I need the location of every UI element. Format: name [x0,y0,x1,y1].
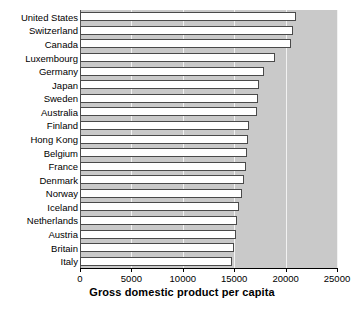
category-label: United States [0,13,78,23]
category-label: Sweden [0,94,78,104]
bar [80,230,236,239]
bar [80,80,259,89]
x-tick-label: 15000 [221,273,247,284]
bar [80,94,258,103]
category-label: Norway [0,189,78,199]
category-label: Denmark [0,176,78,186]
category-label: Japan [0,81,78,91]
bar [80,107,257,116]
x-tick-label: 25000 [324,273,350,284]
category-label: Australia [0,108,78,118]
x-tick-label: 5000 [121,273,142,284]
bar [80,216,237,225]
x-tick [131,268,132,272]
bar [80,53,275,62]
category-label: Austria [0,230,78,240]
bar [80,257,232,266]
x-tick [234,268,235,272]
category-label: Britain [0,244,78,254]
gridline-x [286,10,287,268]
bar [80,39,291,48]
category-axis-labels: United StatesSwitzerlandCanadaLuxembourg… [0,10,78,268]
bar [80,67,264,76]
x-tick [183,268,184,272]
x-tick [286,268,287,272]
bar [80,26,293,35]
category-label: Iceland [0,203,78,213]
x-axis-title: Gross domestic product per capita [0,286,364,298]
category-label: Canada [0,40,78,50]
category-label: Luxembourg [0,54,78,64]
category-label: Belgium [0,149,78,159]
bar [80,12,296,21]
x-tick-label: 0 [77,273,82,284]
x-axis-line [80,268,338,269]
category-label: Finland [0,121,78,131]
category-label: Hong Kong [0,135,78,145]
bar [80,148,247,157]
x-tick [337,268,338,272]
gridline-x [337,10,338,268]
category-label: France [0,162,78,172]
bar [80,202,239,211]
x-tick-label: 10000 [170,273,196,284]
bar [80,175,244,184]
bar [80,243,234,252]
bar [80,189,242,198]
bar [80,121,249,130]
plot-area [80,10,338,268]
category-label: Italy [0,257,78,267]
category-label: Germany [0,67,78,77]
x-tick-label: 20000 [272,273,298,284]
category-label: Switzerland [0,26,78,36]
category-label: Netherlands [0,216,78,226]
x-tick [80,268,81,272]
bar [80,135,248,144]
bar [80,162,246,171]
bar-chart: United StatesSwitzerlandCanadaLuxembourg… [0,0,364,309]
